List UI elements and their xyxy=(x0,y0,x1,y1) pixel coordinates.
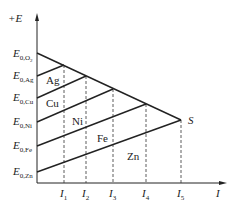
svg-text:E0,Ag: E0,Ag xyxy=(12,69,34,84)
svg-text:E0,Ni: E0,Ni xyxy=(12,115,32,130)
svg-text:E0,Zn: E0,Zn xyxy=(12,165,33,180)
svg-text:E0,O2: E0,O2 xyxy=(12,47,33,63)
zn-line xyxy=(37,120,181,172)
region-zn: Zn xyxy=(127,150,140,162)
svg-text:I1: I1 xyxy=(59,187,68,202)
y-tick-labels: E0,O2 E0,Ag E0,Cu E0,Ni E0,Fe E0,Zn xyxy=(12,47,34,180)
x-axis-arrow xyxy=(219,181,227,185)
region-cu: Cu xyxy=(46,97,59,109)
y-axis-arrow xyxy=(35,13,39,21)
svg-text:I5: I5 xyxy=(176,187,185,202)
svg-text:E0,Fe: E0,Fe xyxy=(12,139,32,154)
fe-line xyxy=(37,104,146,146)
point-s-label: S xyxy=(188,114,194,126)
x-tick-labels: I1 I2 I3 I4 I5 xyxy=(59,187,185,202)
region-fe: Fe xyxy=(97,132,108,144)
x-axis-label: I xyxy=(215,187,221,199)
region-ag: Ag xyxy=(46,74,60,86)
polarization-diagram: +E I E0,O2 E0,Ag E0,Cu E0,Ni E0,Fe E0,Zn… xyxy=(0,0,238,207)
cu-line xyxy=(37,76,86,98)
oxygen-line xyxy=(37,53,181,120)
svg-text:E0,Cu: E0,Cu xyxy=(12,91,34,106)
svg-text:I4: I4 xyxy=(141,187,150,202)
svg-text:I2: I2 xyxy=(81,187,90,202)
y-axis-label: +E xyxy=(8,12,22,24)
region-ni: Ni xyxy=(72,115,83,127)
svg-text:I3: I3 xyxy=(108,187,117,202)
